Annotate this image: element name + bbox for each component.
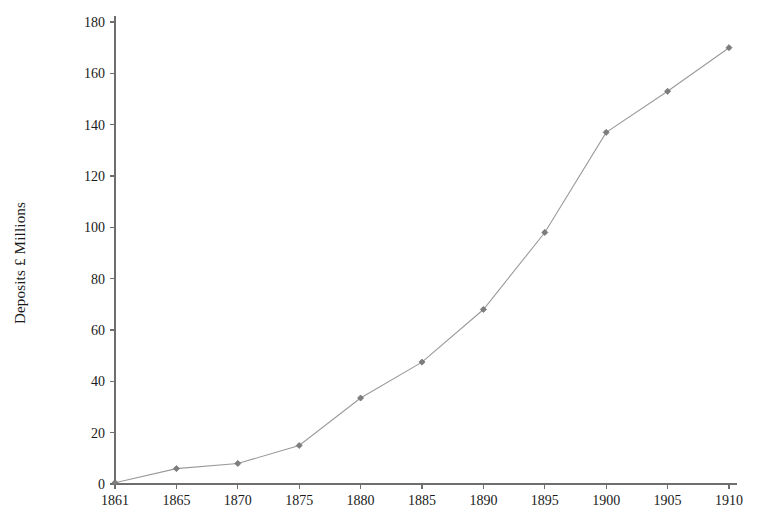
data-point-marker (235, 460, 241, 466)
y-tick-label: 100 (84, 220, 105, 235)
data-series-line (115, 48, 729, 483)
y-tick-label: 160 (84, 66, 105, 81)
y-tick-label: 60 (91, 323, 105, 338)
y-tick-mark-group (110, 22, 115, 484)
data-point-marker (173, 466, 179, 472)
line-chart-plot: 020406080100120140160180 186118651870187… (0, 0, 764, 526)
y-tick-label: 20 (91, 426, 105, 441)
x-tick-label: 1900 (592, 493, 620, 508)
y-tick-label: 140 (84, 118, 105, 133)
x-tick-label: 1861 (101, 493, 129, 508)
chart-screenshot: Deposits £ Millions 02040608010012014016… (0, 0, 764, 526)
data-point-marker (112, 480, 118, 486)
y-tick-label-group: 020406080100120140160180 (84, 15, 105, 492)
x-tick-label: 1905 (654, 493, 682, 508)
y-tick-label: 40 (91, 374, 105, 389)
y-tick-label: 180 (84, 15, 105, 30)
x-tick-label: 1880 (347, 493, 375, 508)
x-tick-label: 1890 (469, 493, 497, 508)
y-tick-label: 80 (91, 272, 105, 287)
x-tick-label: 1895 (531, 493, 559, 508)
x-tick-mark-group (115, 484, 729, 489)
x-tick-label: 1870 (224, 493, 252, 508)
x-tick-label: 1865 (162, 493, 190, 508)
x-tick-label: 1910 (715, 493, 743, 508)
y-tick-label: 120 (84, 169, 105, 184)
x-tick-label: 1875 (285, 493, 313, 508)
data-point-marker (603, 129, 609, 135)
y-tick-label: 0 (98, 477, 105, 492)
x-tick-label: 1885 (408, 493, 436, 508)
x-tick-label-group: 1861186518701875188018851890189519001905… (101, 493, 743, 508)
